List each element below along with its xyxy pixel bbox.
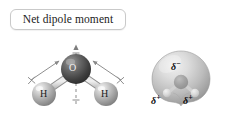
water-dipole-figure: Net dipole moment	[0, 0, 225, 116]
delta-positive-right-label: δ+	[183, 96, 193, 106]
delta-negative-sign: −	[176, 59, 181, 68]
delta-negative-label: δ−	[171, 62, 181, 72]
delta-positive-left-label: δ+	[151, 96, 161, 106]
delta-positive-right-sign: +	[188, 93, 193, 102]
delta-positive-left-sign: +	[156, 93, 161, 102]
